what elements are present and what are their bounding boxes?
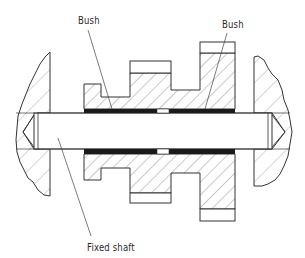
label-bush-right: Bush: [222, 20, 244, 30]
bush-gap-lower: [157, 149, 169, 154]
bush-gap-upper: [157, 109, 169, 113]
label-bush-left: Bush: [78, 16, 100, 26]
label-fixed-shaft: Fixed shaft: [87, 243, 135, 253]
gear-assembly-drawing: [0, 0, 305, 258]
gear-cluster-upper: [84, 42, 235, 109]
gear-cluster-lower: [84, 154, 235, 221]
fixed-shaft: [16, 113, 290, 149]
